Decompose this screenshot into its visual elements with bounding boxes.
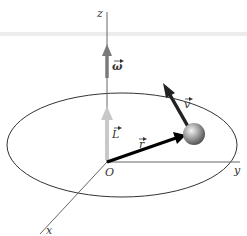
particle-ball	[183, 123, 205, 145]
angular-momentum-diagram: z y x O ω L r v	[0, 0, 247, 236]
y-axis-label: y	[233, 164, 241, 177]
top-band	[0, 32, 247, 36]
omega-vector	[102, 44, 112, 78]
x-axis-label: x	[46, 224, 53, 236]
L-label: L	[111, 126, 122, 141]
omega-label: ω	[112, 59, 124, 73]
circular-orbit	[7, 93, 237, 197]
z-axis-label: z	[96, 7, 103, 20]
origin-label: O	[105, 166, 114, 179]
